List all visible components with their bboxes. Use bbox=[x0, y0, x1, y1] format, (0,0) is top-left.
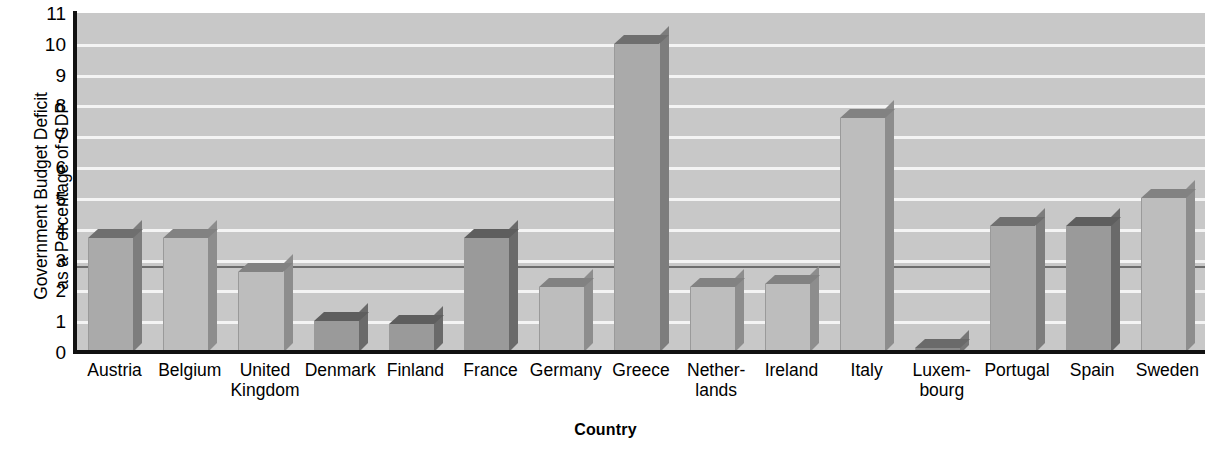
x-axis-tick-label: Portugal bbox=[979, 360, 1054, 380]
x-axis-label-line: United bbox=[227, 360, 302, 380]
bar-top-face bbox=[1066, 217, 1121, 226]
bar-side-face bbox=[509, 220, 518, 352]
bar-front-face bbox=[990, 226, 1036, 352]
y-axis-tick-label: 3 bbox=[55, 250, 66, 269]
bar[interactable] bbox=[88, 238, 133, 352]
bar[interactable] bbox=[1141, 198, 1186, 352]
chart-root: Government Budget Deficit as a Percentag… bbox=[0, 0, 1211, 450]
x-axis-tick-label: Austria bbox=[77, 360, 152, 380]
x-axis-title: Country bbox=[0, 421, 1211, 439]
x-axis-label-line: Sweden bbox=[1130, 360, 1205, 380]
bar-top-face bbox=[1141, 189, 1196, 198]
plot-area bbox=[77, 13, 1205, 352]
x-axis-label-line: Italy bbox=[829, 360, 904, 380]
x-axis-label-line: Belgium bbox=[152, 360, 227, 380]
bar[interactable] bbox=[840, 118, 885, 352]
bar-front-face bbox=[238, 272, 284, 352]
bar[interactable] bbox=[614, 44, 659, 352]
x-axis-label-line: Denmark bbox=[303, 360, 378, 380]
bar-front-face bbox=[690, 287, 736, 352]
bar-front-face bbox=[389, 324, 435, 352]
x-axis-tick-label: Sweden bbox=[1130, 360, 1205, 380]
y-axis-tick-label: 2 bbox=[55, 281, 66, 300]
x-axis-label-line: Kingdom bbox=[227, 380, 302, 400]
x-axis-tick-labels: AustriaBelgiumUnitedKingdomDenmarkFinlan… bbox=[77, 360, 1205, 420]
x-axis-tick-label: Belgium bbox=[152, 360, 227, 380]
y-axis-tick-label: 9 bbox=[55, 65, 66, 84]
bar[interactable] bbox=[389, 324, 434, 352]
y-axis-tick-label: 0 bbox=[55, 343, 66, 362]
bar-front-face bbox=[614, 44, 660, 352]
x-axis-tick-label: Luxem-bourg bbox=[904, 360, 979, 400]
bar-front-face bbox=[1066, 226, 1112, 352]
bar[interactable] bbox=[1066, 226, 1111, 352]
bar-front-face bbox=[314, 321, 360, 352]
x-axis-label-line: Portugal bbox=[979, 360, 1054, 380]
bar[interactable] bbox=[314, 321, 359, 352]
bar-side-face bbox=[1036, 208, 1045, 352]
x-axis-label-line: Austria bbox=[77, 360, 152, 380]
bar-side-face bbox=[208, 220, 217, 352]
x-axis-tick-label: France bbox=[453, 360, 528, 380]
y-axis-tick-label: 1 bbox=[55, 312, 66, 331]
x-axis-tick-label: Nether-lands bbox=[679, 360, 754, 400]
bar-slot bbox=[528, 13, 603, 352]
y-axis-tick-label: 7 bbox=[55, 127, 66, 146]
x-axis-tick-label: Italy bbox=[829, 360, 904, 380]
bar-slot bbox=[829, 13, 904, 352]
x-axis-tick-label: Germany bbox=[528, 360, 603, 380]
x-axis-label-line: Luxem- bbox=[904, 360, 979, 380]
x-axis-label-line: France bbox=[453, 360, 528, 380]
bar-side-face bbox=[1186, 180, 1195, 352]
y-axis-ticks: 01234567891011 bbox=[40, 0, 66, 450]
bar-slot bbox=[77, 13, 152, 352]
x-axis-label-line: Spain bbox=[1055, 360, 1130, 380]
x-axis-label-line: Ireland bbox=[754, 360, 829, 380]
bar-slot bbox=[679, 13, 754, 352]
x-axis-label-line: lands bbox=[679, 380, 754, 400]
y-axis-tick-label: 5 bbox=[55, 188, 66, 207]
y-axis-tick-label: 10 bbox=[45, 34, 66, 53]
bar-slot bbox=[453, 13, 528, 352]
bar-side-face bbox=[1111, 208, 1120, 352]
bar[interactable] bbox=[539, 287, 584, 352]
bar[interactable] bbox=[765, 284, 810, 352]
bar-slot bbox=[1130, 13, 1205, 352]
bar-side-face bbox=[434, 306, 443, 352]
bar[interactable] bbox=[238, 272, 283, 352]
bar-slot bbox=[152, 13, 227, 352]
x-axis-tick-label: Denmark bbox=[303, 360, 378, 380]
y-axis-tick-label: 4 bbox=[55, 219, 66, 238]
x-axis-tick-label: Finland bbox=[378, 360, 453, 380]
bar-front-face bbox=[765, 284, 811, 352]
bar-slot bbox=[303, 13, 378, 352]
bar-front-face bbox=[539, 287, 585, 352]
bar-slot bbox=[227, 13, 302, 352]
bar[interactable] bbox=[690, 287, 735, 352]
x-axis-label-line: Greece bbox=[603, 360, 678, 380]
x-axis-label-line: Finland bbox=[378, 360, 453, 380]
bar-slot bbox=[603, 13, 678, 352]
bar[interactable] bbox=[464, 238, 509, 352]
bar-side-face bbox=[359, 303, 368, 352]
bar-side-face bbox=[660, 26, 669, 352]
bar[interactable] bbox=[163, 238, 208, 352]
x-axis-tick-label: UnitedKingdom bbox=[227, 360, 302, 400]
bar-front-face bbox=[464, 238, 510, 352]
bar-slot bbox=[1055, 13, 1130, 352]
x-axis-tick-label: Ireland bbox=[754, 360, 829, 380]
x-axis-label-line: Nether- bbox=[679, 360, 754, 380]
x-axis-tick-label: Spain bbox=[1055, 360, 1130, 380]
y-axis-line bbox=[73, 11, 77, 354]
bar-side-face bbox=[133, 220, 142, 352]
y-axis-tick-label: 6 bbox=[55, 158, 66, 177]
bar-slot bbox=[979, 13, 1054, 352]
bar-front-face bbox=[840, 118, 886, 352]
x-axis-tick-label: Greece bbox=[603, 360, 678, 380]
y-axis-tick-label: 11 bbox=[46, 4, 66, 23]
bar-front-face bbox=[163, 238, 209, 352]
bar[interactable] bbox=[990, 226, 1035, 352]
x-axis-line bbox=[73, 350, 1205, 354]
y-axis-tick-label: 8 bbox=[55, 96, 66, 115]
x-axis-label-line: Germany bbox=[528, 360, 603, 380]
